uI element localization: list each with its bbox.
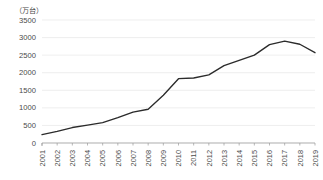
x-tick-label: 2002 [53,150,62,166]
x-axis-line-group [42,143,315,146]
y-tick-label: 3500 [19,16,36,25]
x-tick-label: 2008 [144,150,153,166]
y-tick-label: 500 [23,121,36,130]
x-tick-label: 2015 [250,150,259,166]
x-tick-label: 2018 [296,150,305,166]
x-axis-tick-labels: 2001200220032004200520062007200820092010… [38,150,320,166]
x-tick-label: 2007 [129,150,138,166]
x-tick-label: 2017 [280,150,289,166]
x-tick-label: 2001 [38,150,47,166]
y-tick-label: 1000 [19,103,36,112]
y-axis-tick-labels: 3500300025002000150010005000 [19,16,36,148]
chart-figure: （万台） 3500300025002000150010005000 200120… [0,0,323,180]
x-tick-label: 2004 [83,150,92,166]
y-tick-label: 0 [32,139,36,148]
x-tick-label: 2003 [68,150,77,166]
x-tick-label: 2014 [235,150,244,166]
x-tick-label: 2009 [159,150,168,166]
x-tick-label: 2006 [114,150,123,166]
x-tick-label: 2016 [265,150,274,166]
y-tick-label: 2500 [19,51,36,60]
x-tick-label: 2011 [189,150,198,166]
y-tick-label: 1500 [19,86,36,95]
x-tick-label: 2013 [220,150,229,166]
x-tick-label: 2019 [311,150,320,166]
x-tick-label: 2012 [205,150,214,166]
x-tick-label: 2010 [174,150,183,166]
x-tick-label: 2005 [98,150,107,166]
plot-area: 3500300025002000150010005000 20012002200… [0,0,323,180]
line-chart-svg: 3500300025002000150010005000 20012002200… [0,0,323,180]
y-tick-label: 3000 [19,33,36,42]
y-tick-label: 2000 [19,68,36,77]
gridlines-group [42,20,315,143]
